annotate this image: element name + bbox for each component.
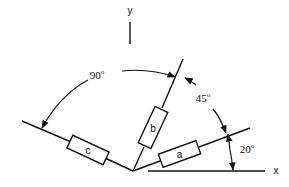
x-axis-label: x	[274, 165, 279, 176]
angle-45-label: 45o	[196, 91, 211, 104]
angle-20-indicator: 20o	[228, 134, 255, 170]
angle-20-label: 20o	[240, 142, 255, 155]
x-axis: x	[148, 165, 279, 176]
y-axis: y	[128, 5, 133, 44]
angle-90-label: 90o	[90, 68, 105, 81]
resistor-a-label: a	[177, 149, 183, 160]
resistor-c-label: c	[86, 145, 91, 156]
element-c: c	[22, 121, 133, 171]
vector-diagram: y x a b c 90o	[0, 0, 289, 187]
y-axis-label: y	[128, 5, 133, 16]
resistor-b-label: b	[150, 123, 156, 134]
angle-45-indicator: 45o	[185, 78, 226, 133]
